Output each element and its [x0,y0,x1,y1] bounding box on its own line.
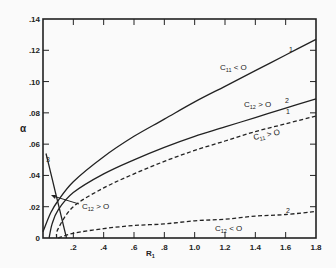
y-tick-label: 0 [36,234,41,243]
y-tick-label: .10 [29,78,41,87]
y-tick-label: .04 [29,171,41,180]
annotation-c11-negative: C11 < O [220,63,247,73]
annotation-c12-negative: C12 < O [215,224,242,234]
curve-label-2-dashed: 2 [286,207,290,214]
series-line-3 [58,211,316,238]
x-axis-label: R1 [146,249,155,259]
chart: .2.4.6.81.01.21.41.61.80.02.04.06.08.10.… [0,0,336,268]
curve-label-2-solid: 2 [285,97,289,104]
x-tick-label: 1.2 [219,243,231,252]
x-tick-label: 1.8 [310,243,322,252]
y-tick-label: .14 [29,15,41,24]
y-tick-label: .12 [29,46,41,55]
x-tick-label: 1.0 [189,243,201,252]
y-axis-label: α [20,123,27,134]
x-tick-label: .2 [70,243,77,252]
x-tick-label: .4 [100,243,107,252]
annotation-c12-positive: C12 > O [244,100,271,110]
series-line-4 [46,154,67,239]
curve-label-3: 3 [46,156,50,163]
curve-label-1-dashed: 1 [286,108,290,115]
x-tick-label: 1.6 [280,243,292,252]
annotation-c12-positive-arrow: C12 > O [82,202,109,212]
x-tick-label: .8 [161,243,168,252]
arrow-head-icon [51,195,56,199]
y-tick-label: .06 [29,140,41,149]
x-tick-label: .6 [131,243,138,252]
annotation-c11-positive: C11 > O [253,128,281,143]
y-tick-label: .02 [29,203,41,212]
curve-label-1-solid: 1 [289,46,293,53]
y-tick-label: .08 [29,109,41,118]
x-tick-label: 1.4 [250,243,262,252]
